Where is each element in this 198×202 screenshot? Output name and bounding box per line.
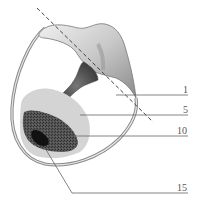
label-15: 15	[177, 182, 187, 193]
label-10: 10	[177, 125, 187, 136]
upper-shell	[39, 24, 136, 98]
label-5: 5	[183, 104, 188, 115]
diagram-figure: 1 5 10 15	[0, 0, 198, 202]
label-1: 1	[183, 84, 188, 95]
